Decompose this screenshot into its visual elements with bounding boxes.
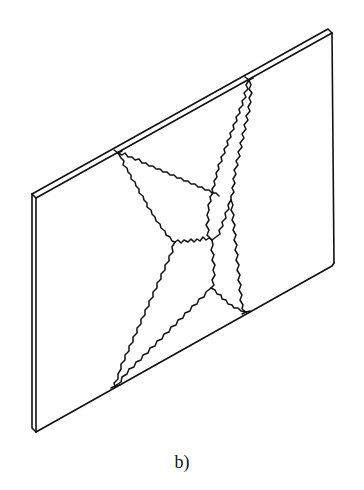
plate-top-edge-front	[36, 33, 332, 198]
crack-j4-to-j5	[211, 240, 215, 288]
crack-j2-to-bottom-right	[231, 200, 246, 312]
crack-a-to-j3	[118, 153, 175, 242]
crack-a-to-j1	[118, 153, 219, 196]
crack-j3-to-j4	[175, 237, 212, 243]
crack-j5-to-bottom-left	[115, 288, 211, 386]
plate	[32, 29, 334, 432]
crack-b-to-j4-left	[206, 80, 249, 240]
plate-right-edge	[332, 33, 334, 263]
crack-j3-to-bottom-left	[114, 242, 175, 386]
crack-j2-to-j4	[212, 200, 231, 240]
crack-b-to-j2-right	[231, 80, 252, 200]
plate-bottom-edge	[36, 263, 334, 432]
plate-top-edge-back	[32, 29, 332, 194]
cracks	[111, 77, 253, 388]
cracked-plate-figure	[0, 0, 364, 490]
figure-caption: b)	[0, 452, 364, 473]
